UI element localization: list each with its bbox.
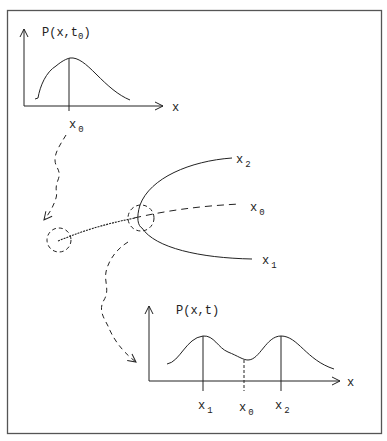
top-marker-label: x0 [69,118,84,135]
top-y-label: P(x,t0) [42,26,91,42]
branch-upper [138,158,232,228]
bottom-y-label: P(x,t) [176,304,219,318]
branch-lower-label: x1 [262,254,277,271]
bottom-marker-x0-label: x0 [239,401,254,418]
transition-arrow-bottom [101,242,136,362]
branch-upper-label: x2 [236,153,251,170]
pre-bifurcation-path [58,218,135,241]
top-x-axis-label: x [172,101,179,115]
bifurcation-diagram: P(x,t0) x x0 x2 x0 x1 P(x,t) x x1 x0 x2 [0,0,387,441]
bottom-marker-x1-label: x1 [198,399,213,416]
branch-middle-label: x0 [250,201,265,218]
transition-arrow-top [44,135,66,220]
bottom-marker-x2-label: x2 [275,399,290,416]
frame-border [8,11,382,434]
top-plot [24,29,163,111]
branch-lower [142,228,252,259]
branch-middle [134,204,240,218]
bottom-plot [149,306,340,391]
top-curve [35,58,130,100]
bottom-curve [167,336,334,369]
bottom-x-axis-label: x [347,376,354,390]
